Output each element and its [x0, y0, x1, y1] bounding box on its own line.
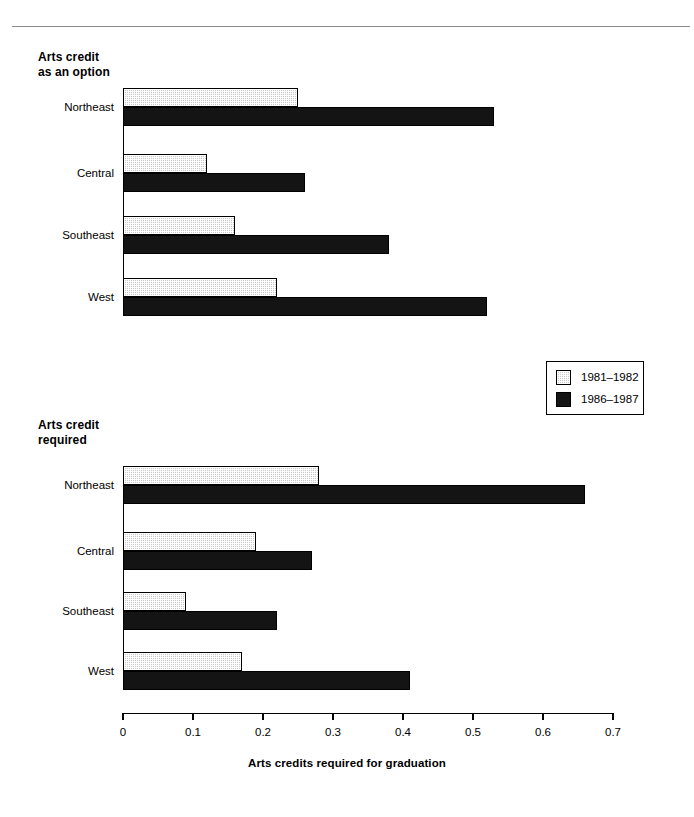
x-axis-tick [542, 713, 543, 720]
bar-group-central: Central [123, 154, 683, 192]
category-label-central: Central [77, 167, 114, 179]
legend-swatch-icon-1986-1987 [556, 392, 571, 407]
x-axis-tick-label: 0.1 [185, 726, 201, 739]
bar-central-1981-1982 [123, 154, 207, 173]
bar-group-west: West [123, 278, 683, 316]
bar-group-northeast: Northeast [123, 466, 683, 504]
bar-southeast-1981-1982 [123, 592, 186, 611]
x-axis-tick-label: 0.6 [535, 726, 551, 739]
legend-label-1986-1987: 1986–1987 [581, 393, 639, 406]
bar-central-1986-1987 [123, 551, 312, 570]
bar-group-southeast: Southeast [123, 216, 683, 254]
x-axis-tick [612, 713, 613, 720]
bar-group-northeast: Northeast [123, 88, 683, 126]
category-label-southeast: Southeast [62, 605, 114, 617]
bar-northeast-1986-1987 [123, 107, 494, 126]
x-axis-tick-label: 0.3 [325, 726, 341, 739]
x-axis-tick [402, 713, 403, 720]
category-label-northeast: Northeast [64, 101, 114, 113]
bar-west-1986-1987 [123, 671, 410, 690]
category-label-west: West [88, 665, 114, 677]
bar-group-central: Central [123, 532, 683, 570]
x-axis-tick-label: 0.2 [255, 726, 271, 739]
bar-west-1986-1987 [123, 297, 487, 316]
bar-central-1986-1987 [123, 173, 305, 192]
x-axis-tick-label: 0.7 [605, 726, 621, 739]
bar-northeast-1986-1987 [123, 485, 585, 504]
legend: 1981–1982 1986–1987 [546, 361, 644, 415]
category-label-northeast: Northeast [64, 479, 114, 491]
bar-group-southeast: Southeast [123, 592, 683, 630]
category-label-central: Central [77, 545, 114, 557]
bar-northeast-1981-1982 [123, 466, 319, 485]
bar-southeast-1981-1982 [123, 216, 235, 235]
x-axis-tick [262, 713, 263, 720]
chart-page: Arts credit as an option NortheastCentra… [0, 0, 694, 817]
x-axis-tick [122, 713, 123, 720]
panel-title-arts-credit-as-an-option: Arts credit as an option [38, 50, 110, 80]
bar-southeast-1986-1987 [123, 611, 277, 630]
x-axis-tick [472, 713, 473, 720]
x-axis-tick-label: 0 [120, 726, 126, 739]
x-axis-tick-label: 0.5 [465, 726, 481, 739]
bar-west-1981-1982 [123, 278, 277, 297]
x-axis-tick [332, 713, 333, 720]
legend-label-1981-1982: 1981–1982 [581, 371, 639, 384]
header-rule [12, 26, 690, 27]
category-label-southeast: Southeast [62, 229, 114, 241]
x-axis-tick [192, 713, 193, 720]
x-axis-line [123, 713, 614, 714]
x-axis-title: Arts credits required for graduation [0, 757, 694, 769]
x-axis-tick-label: 0.4 [395, 726, 411, 739]
bar-group-west: West [123, 652, 683, 690]
panel-title-arts-credit-required: Arts credit required [38, 418, 99, 448]
legend-swatch-icon-1981-1982 [556, 370, 571, 385]
plot-area-bottom: NortheastCentralSoutheastWest [123, 466, 683, 702]
bar-northeast-1981-1982 [123, 88, 298, 107]
bar-west-1981-1982 [123, 652, 242, 671]
category-label-west: West [88, 291, 114, 303]
bar-southeast-1986-1987 [123, 235, 389, 254]
plot-area-top: NortheastCentralSoutheastWest [123, 88, 683, 306]
bar-central-1981-1982 [123, 532, 256, 551]
